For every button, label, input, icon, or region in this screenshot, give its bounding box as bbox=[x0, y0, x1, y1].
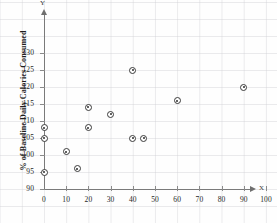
data-point bbox=[174, 97, 181, 104]
y-axis-arrow-icon bbox=[41, 9, 47, 15]
y-tick-label: 120 bbox=[12, 83, 34, 91]
y-tick-label: 90 bbox=[12, 185, 34, 193]
data-point bbox=[240, 84, 247, 91]
x-tick-label: 50 bbox=[145, 196, 165, 204]
data-point bbox=[74, 165, 81, 172]
data-point bbox=[41, 124, 48, 131]
x-tick-label: 90 bbox=[234, 196, 254, 204]
data-point bbox=[85, 104, 92, 111]
x-axis-letter: X bbox=[259, 184, 264, 193]
scatter-plot-figure: Y X % of Baseline Daily Calories Consume… bbox=[0, 0, 277, 223]
y-tick-label: 130 bbox=[12, 49, 34, 57]
data-point bbox=[85, 124, 92, 131]
x-tick-label: 0 bbox=[34, 196, 54, 204]
data-point bbox=[129, 135, 136, 142]
x-tick-mark bbox=[88, 186, 89, 191]
y-tick-mark bbox=[40, 155, 45, 156]
x-tick-label: 20 bbox=[78, 196, 98, 204]
x-tick-mark bbox=[133, 186, 134, 191]
x-tick-label: 10 bbox=[56, 196, 76, 204]
x-tick-label: 60 bbox=[167, 196, 187, 204]
y-tick-label: 105 bbox=[12, 134, 34, 142]
x-tick-label: 40 bbox=[123, 196, 143, 204]
y-tick-label: 125 bbox=[12, 66, 34, 74]
x-tick-mark bbox=[155, 186, 156, 191]
y-tick-mark bbox=[40, 87, 45, 88]
y-tick-mark bbox=[40, 70, 45, 71]
x-axis-arrow-icon bbox=[250, 186, 256, 192]
data-point bbox=[129, 67, 136, 74]
x-tick-label: 70 bbox=[189, 196, 209, 204]
x-tick-mark bbox=[199, 186, 200, 191]
x-tick-label: 80 bbox=[212, 196, 232, 204]
x-tick-label: 100 bbox=[256, 196, 276, 204]
x-tick-mark bbox=[222, 186, 223, 191]
x-tick-mark bbox=[111, 186, 112, 191]
x-tick-label: 30 bbox=[101, 196, 121, 204]
x-tick-mark bbox=[244, 186, 245, 191]
data-point bbox=[41, 135, 48, 142]
plot-area: Y X % of Baseline Daily Calories Consume… bbox=[0, 0, 277, 223]
y-axis-letter: Y bbox=[40, 0, 45, 8]
x-axis-line bbox=[44, 189, 250, 190]
data-point bbox=[63, 148, 70, 155]
x-tick-mark bbox=[266, 186, 267, 191]
y-tick-mark bbox=[40, 121, 45, 122]
data-point bbox=[140, 135, 147, 142]
y-tick-label: 100 bbox=[12, 151, 34, 159]
y-tick-label: 110 bbox=[12, 117, 34, 125]
y-tick-label: 115 bbox=[12, 100, 34, 108]
y-tick-mark bbox=[40, 189, 45, 190]
x-tick-mark bbox=[177, 186, 178, 191]
y-tick-mark bbox=[40, 104, 45, 105]
x-tick-mark bbox=[66, 186, 67, 191]
data-point bbox=[41, 169, 48, 176]
y-tick-mark bbox=[40, 53, 45, 54]
y-axis-line bbox=[44, 14, 45, 190]
data-point bbox=[107, 111, 114, 118]
y-tick-label: 95 bbox=[12, 168, 34, 176]
